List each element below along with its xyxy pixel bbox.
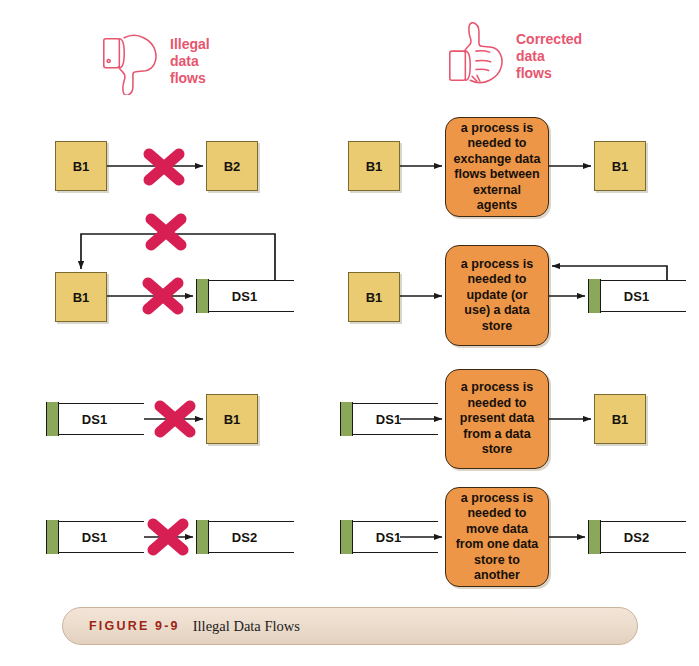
row-2-corrected-feedback-arrow: [552, 266, 667, 280]
row-3-corrected-target: B1: [594, 394, 646, 444]
row-2-corrected-source: B1: [348, 272, 400, 322]
row-1-corrected-target: B1: [594, 141, 646, 191]
figure-caption-bar: FIGURE 9-9 Illegal Data Flows: [62, 607, 638, 645]
row-1-x-mark: [149, 154, 179, 180]
figure-canvas: Illegal data flows Corrected data flows …: [0, 0, 699, 666]
datastore-tab: [340, 520, 353, 554]
row-2-corrected-process: a process is needed to update (or use) a…: [445, 245, 549, 346]
row-4-corrected-target: DS2: [588, 521, 686, 553]
datastore-tab: [588, 279, 601, 313]
datastore-tab: [196, 520, 209, 554]
node-label: DS1: [59, 412, 144, 427]
datastore-tab: [46, 402, 59, 436]
corrected-column-header: Corrected data flows: [446, 22, 582, 90]
illegal-column-label: Illegal data flows: [170, 36, 210, 87]
process-label: a process is needed to update (or use) a…: [452, 257, 542, 335]
row-2-feedback-x-mark: [151, 219, 181, 245]
node-label: B1: [366, 290, 383, 305]
figure-number: FIGURE 9-9: [89, 619, 180, 633]
row-3-illegal-source: DS1: [46, 403, 144, 435]
node-label: B1: [73, 159, 90, 174]
row-4-x-mark: [153, 524, 183, 550]
node-label: DS1: [353, 530, 438, 545]
row-3-x-mark: [160, 406, 190, 432]
node-label: B1: [224, 412, 241, 427]
figure-title: Illegal Data Flows: [193, 618, 300, 635]
row-1-corrected-process: a process is needed to exchange data flo…: [445, 117, 549, 217]
datastore-tab: [588, 520, 601, 554]
row-2-illegal-target: DS1: [196, 280, 294, 312]
row-2-corrected-target: DS1: [588, 280, 686, 312]
datastore-tab: [196, 279, 209, 313]
row-4-illegal-source: DS1: [46, 521, 144, 553]
row-4-illegal-target: DS2: [196, 521, 294, 553]
illegal-column-header: Illegal data flows: [100, 27, 210, 95]
datastore-tab: [340, 402, 353, 436]
thumbs-up-icon: [446, 22, 508, 90]
node-label: DS1: [601, 289, 686, 304]
row-1-illegal-target: B2: [206, 141, 258, 191]
node-label: DS1: [353, 412, 438, 427]
process-label: a process is needed to move data from on…: [452, 491, 542, 584]
node-label: DS2: [209, 530, 294, 545]
row-2-illegal-feedback-arrow: [81, 234, 275, 280]
node-label: DS2: [601, 530, 686, 545]
node-label: B1: [366, 159, 383, 174]
row-1-illegal-source: B1: [55, 141, 107, 191]
connector-layer: [0, 0, 699, 666]
node-label: B1: [73, 290, 90, 305]
node-label: B1: [612, 159, 629, 174]
row-2-x-mark: [148, 283, 178, 309]
row-3-illegal-target: B1: [206, 394, 258, 444]
row-2-illegal-source: B1: [55, 272, 107, 322]
node-label: DS1: [59, 530, 144, 545]
node-label: B1: [612, 412, 629, 427]
row-3-corrected-process: a process is needed to present data from…: [445, 369, 549, 469]
process-label: a process is needed to exchange data flo…: [452, 121, 542, 214]
process-label: a process is needed to present data from…: [452, 380, 542, 458]
datastore-tab: [46, 520, 59, 554]
row-4-corrected-source: DS1: [340, 521, 438, 553]
node-label: DS1: [209, 289, 294, 304]
node-label: B2: [224, 159, 241, 174]
thumbs-down-icon: [100, 27, 162, 95]
corrected-column-label: Corrected data flows: [516, 31, 582, 82]
row-1-corrected-source: B1: [348, 141, 400, 191]
row-3-corrected-source: DS1: [340, 403, 438, 435]
row-4-corrected-process: a process is needed to move data from on…: [445, 487, 549, 587]
